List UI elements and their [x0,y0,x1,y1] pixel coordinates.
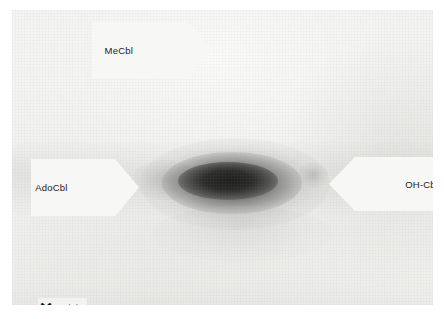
origin-label-text: origin [60,303,83,306]
tlc-plate: MeCbl AdoCbl OH-Cbl ✕ origin [12,10,433,305]
label-text-ohcbl: OH-Cbl [405,179,433,190]
spot-diffuse-smear [152,206,332,262]
label-flag-adocbl: AdoCbl [31,159,139,216]
main-spot-core [178,162,278,200]
label-flag-ohcbl: OH-Cbl [329,157,433,211]
label-text-adocbl: AdoCbl [35,182,67,193]
tlc-autoradiograph-figure: MeCbl AdoCbl OH-Cbl ✕ origin [0,0,444,319]
spot-tail-streak [132,160,198,200]
label-flag-mecbl: MeCbl [92,22,213,78]
main-spot-midtone [162,152,302,214]
main-spot-halo [140,138,330,230]
origin-marker-group: ✕ origin [38,298,87,305]
label-text-mecbl: MeCbl [105,45,133,56]
faint-spot-ohcbl [298,162,328,188]
cross-marker-icon: ✕ [39,300,54,305]
